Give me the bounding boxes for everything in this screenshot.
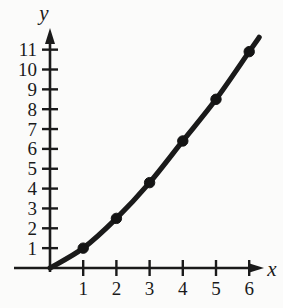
data-point-2: [111, 213, 121, 223]
y-tick-label-9: 9: [28, 79, 38, 100]
x-axis-label: x: [266, 257, 277, 281]
data-point-3: [144, 177, 154, 187]
y-tick-label-2: 2: [28, 218, 38, 239]
data-markers: [78, 46, 254, 253]
data-point-6: [244, 46, 254, 56]
y-tick-label-10: 10: [18, 59, 37, 80]
y-axis-tick-labels: 1234567891011: [18, 39, 38, 259]
y-axis-arrowhead: [45, 28, 55, 44]
x-tick-label-4: 4: [178, 278, 188, 299]
data-point-1: [78, 243, 88, 253]
x-tick-label-1: 1: [78, 278, 88, 299]
x-tick-label-5: 5: [211, 278, 221, 299]
chart-plot-area: 1234567891011 123456 y x: [0, 0, 283, 308]
y-axis-group: 1234567891011: [18, 28, 58, 272]
y-tick-label-4: 4: [28, 178, 38, 199]
y-tick-label-1: 1: [28, 238, 38, 259]
y-tick-label-3: 3: [28, 198, 38, 219]
data-curve: [50, 37, 259, 268]
y-tick-label-11: 11: [19, 39, 37, 60]
y-tick-label-6: 6: [28, 138, 38, 159]
x-axis-tick-labels: 123456: [78, 278, 253, 299]
x-tick-label-3: 3: [145, 278, 155, 299]
x-tick-label-2: 2: [112, 278, 122, 299]
y-axis-label: y: [37, 1, 49, 25]
data-point-4: [178, 136, 188, 146]
chart-figure: 1234567891011 123456 y x: [0, 0, 283, 308]
y-tick-label-5: 5: [28, 158, 38, 179]
y-tick-label-7: 7: [28, 119, 38, 140]
x-tick-label-6: 6: [244, 278, 254, 299]
y-tick-label-8: 8: [28, 99, 38, 120]
data-point-5: [211, 94, 221, 104]
